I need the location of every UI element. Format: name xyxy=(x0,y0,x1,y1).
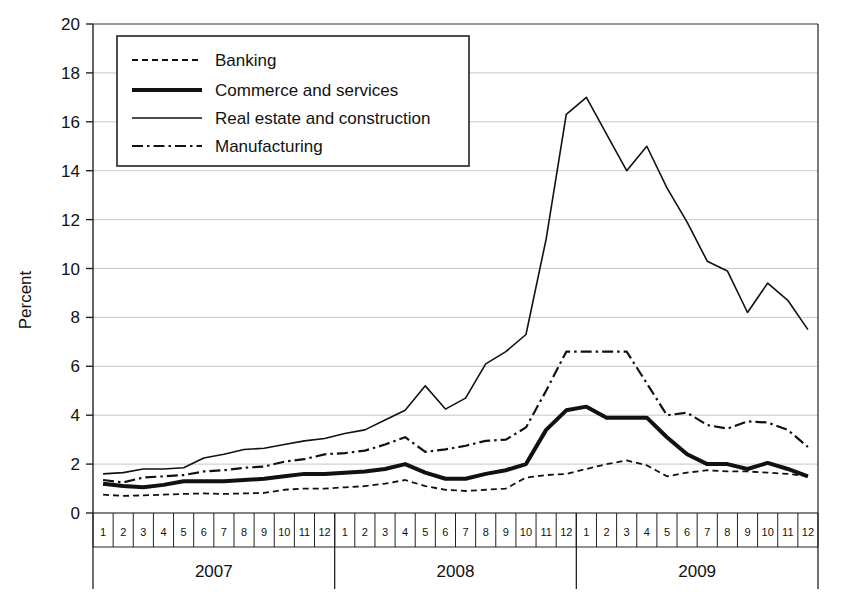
x-axis-year-label: 2008 xyxy=(437,562,475,581)
y-axis-tick-label: 8 xyxy=(71,308,80,327)
x-axis-month-label: 11 xyxy=(540,526,551,538)
figure-container: 02468101214161820 1234567891011121234567… xyxy=(0,0,841,608)
legend-label-banking: Banking xyxy=(215,51,276,70)
legend-label-real-estate-and-construction: Real estate and construction xyxy=(215,109,430,128)
x-axis-month-label: 9 xyxy=(744,526,750,538)
y-axis-tick-label: 0 xyxy=(71,504,80,523)
y-axis-title: Percent xyxy=(16,270,35,329)
x-axis-month-label: 4 xyxy=(160,526,166,538)
x-axis-month-label: 5 xyxy=(422,526,428,538)
x-axis-group: 1234567891011121234567891011121234567891… xyxy=(93,513,818,589)
x-axis-month-label: 2 xyxy=(603,526,609,538)
series-line-commerce-and-services xyxy=(103,407,808,488)
x-axis-month-label: 7 xyxy=(704,526,710,538)
x-axis-month-label: 1 xyxy=(583,526,589,538)
y-axis-tick-label: 16 xyxy=(61,113,80,132)
x-axis-month-label: 6 xyxy=(684,526,690,538)
x-axis-month-label: 11 xyxy=(782,526,793,538)
x-axis-month-label: 9 xyxy=(261,526,267,538)
x-axis-month-label: 10 xyxy=(520,526,532,538)
y-axis-tick-label: 6 xyxy=(71,357,80,376)
x-axis-month-label: 7 xyxy=(463,526,469,538)
x-axis-month-label: 12 xyxy=(802,526,814,538)
y-axis-tick-label: 2 xyxy=(71,455,80,474)
legend-label-commerce-and-services: Commerce and services xyxy=(215,81,398,100)
y-axis-tick-label: 12 xyxy=(61,211,80,230)
x-axis-month-label: 1 xyxy=(100,526,106,538)
line-chart: 02468101214161820 1234567891011121234567… xyxy=(0,0,841,608)
y-axis-tick-label: 20 xyxy=(61,15,80,34)
x-axis-month-label: 4 xyxy=(644,526,650,538)
y-axis-tick-label: 10 xyxy=(61,260,80,279)
x-axis-month-label: 2 xyxy=(120,526,126,538)
x-axis-month-label: 3 xyxy=(140,526,146,538)
x-axis-month-label: 9 xyxy=(503,526,509,538)
x-axis-month-label: 3 xyxy=(382,526,388,538)
x-axis-month-label: 11 xyxy=(299,526,310,538)
x-axis-month-label: 12 xyxy=(560,526,572,538)
y-axis-tick-label: 18 xyxy=(61,64,80,83)
x-axis-month-label: 10 xyxy=(278,526,290,538)
x-axis-month-label: 10 xyxy=(762,526,774,538)
x-axis-month-label: 4 xyxy=(402,526,408,538)
x-axis-month-label: 6 xyxy=(442,526,448,538)
x-axis-month-label: 3 xyxy=(624,526,630,538)
x-axis-year-label: 2009 xyxy=(678,562,716,581)
x-axis-month-label: 5 xyxy=(664,526,670,538)
chart-legend: BankingCommerce and servicesReal estate … xyxy=(117,36,469,166)
x-axis-month-label: 8 xyxy=(724,526,730,538)
x-axis-year-label: 2007 xyxy=(195,562,233,581)
x-axis-month-label: 7 xyxy=(221,526,227,538)
x-axis-month-label: 5 xyxy=(181,526,187,538)
x-axis-month-label: 1 xyxy=(342,526,348,538)
x-axis-month-label: 8 xyxy=(241,526,247,538)
x-axis-month-label: 2 xyxy=(362,526,368,538)
x-axis-month-label: 6 xyxy=(201,526,207,538)
x-axis-month-label: 12 xyxy=(318,526,330,538)
y-axis-tick-label: 4 xyxy=(71,406,80,425)
x-axis-month-label: 8 xyxy=(483,526,489,538)
y-axis-tick-label: 14 xyxy=(61,162,80,181)
legend-label-manufacturing: Manufacturing xyxy=(215,137,323,156)
